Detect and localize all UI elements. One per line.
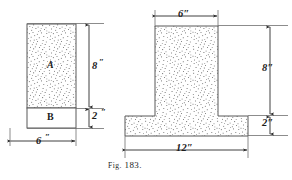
caption-prefix: Fig. (108, 161, 122, 170)
left-region-a-label: A (47, 60, 54, 70)
figure-drawing (0, 0, 292, 180)
right-tee-fill (125, 26, 248, 136)
left-diagram-group (10, 24, 104, 147)
left-height-2in-unit: ″ (101, 108, 106, 117)
left-height-2in-label: 2 (92, 111, 97, 122)
left-height-8in-unit: ″ (99, 58, 104, 67)
figure-caption: Fig. 183. (108, 160, 142, 170)
left-height-8in-label: 8 (92, 61, 97, 72)
right-height-2in-label: 2″ (262, 118, 273, 129)
right-width-12in-label: 12″ (176, 143, 193, 154)
figure-183: A B 8 ″ 2 ″ 6 ″ 6″ 8″ 2″ 12″ Fig. 183. (0, 0, 292, 180)
right-width-6in-label: 6″ (178, 9, 189, 20)
right-height-8in-label: 8″ (262, 63, 273, 74)
left-width-6in-label: 6 (36, 136, 41, 147)
left-width-6in-unit: ″ (45, 133, 50, 142)
left-region-b-label: B (47, 112, 54, 122)
caption-number: 183. (125, 160, 142, 170)
right-diagram-group (125, 10, 288, 158)
